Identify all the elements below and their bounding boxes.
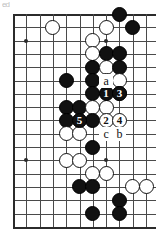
white-stone (139, 179, 154, 194)
point-label-a: a (99, 74, 113, 88)
black-stone (85, 206, 100, 221)
black-move-stone: 5 (72, 113, 87, 128)
scan-artifact-text: ed (2, 0, 16, 9)
grid-line-horizontal (13, 14, 156, 16)
black-stone (59, 73, 74, 88)
white-move-stone: 4 (112, 113, 127, 128)
black-stone (125, 20, 140, 35)
grid-line-vertical (53, 14, 54, 227)
grid-line-horizontal (13, 200, 156, 201)
hoshi-point (24, 158, 28, 162)
hoshi-point (24, 39, 28, 43)
white-stone (45, 20, 60, 35)
move-number: 1 (100, 87, 113, 100)
hoshi-point (104, 158, 108, 162)
black-move-stone: 3 (112, 86, 127, 101)
move-number: 3 (113, 87, 126, 100)
grid-line-vertical (146, 14, 147, 227)
white-stone (72, 153, 87, 168)
white-stone (125, 179, 140, 194)
white-stone (72, 126, 87, 141)
grid-line-horizontal (13, 227, 156, 229)
black-stone (112, 7, 127, 22)
grid-line-vertical (13, 14, 15, 227)
black-stone (85, 179, 100, 194)
move-number: 4 (113, 114, 126, 127)
grid-line-vertical (40, 14, 41, 227)
black-stone (85, 140, 100, 155)
move-number: 5 (73, 114, 86, 127)
go-board-diagram: ed 13524 acb (0, 0, 156, 251)
white-stone (99, 166, 114, 181)
black-stone (112, 206, 127, 221)
hoshi-point (104, 39, 108, 43)
move-number: 2 (100, 114, 113, 127)
grid-line-vertical (26, 14, 27, 227)
point-label-b: b (112, 127, 126, 141)
point-label-c: c (99, 127, 113, 141)
white-stone (99, 20, 114, 35)
grid-line-vertical (133, 14, 134, 227)
